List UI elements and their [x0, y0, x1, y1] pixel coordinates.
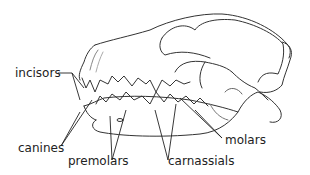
label-incisors: incisors [15, 67, 61, 79]
label-premolars: premolars [68, 155, 129, 167]
upper-teeth [82, 76, 190, 92]
lower-teeth [96, 92, 208, 106]
orbit-outline [162, 19, 284, 82]
label-canines: canines [18, 142, 64, 154]
label-molars: molars [225, 134, 266, 146]
skull-diagram: incisors canines premolars carnassials m… [0, 0, 310, 175]
label-carnassials: carnassials [168, 155, 234, 167]
